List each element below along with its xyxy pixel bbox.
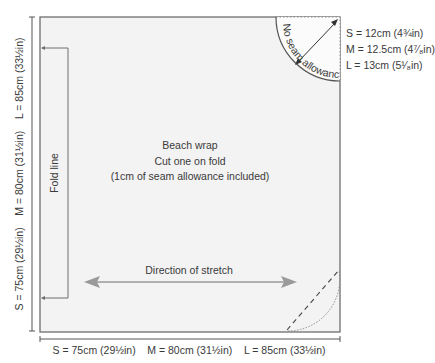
width-dimension-label: S = 75cm (29½in) M = 80cm (31½in) L = 85… xyxy=(52,344,325,356)
piece-instruction: Cut one on fold xyxy=(154,155,225,167)
piece-title: Beach wrap xyxy=(162,139,218,151)
size-s: S = 12cm (4¾in) xyxy=(346,25,435,41)
height-dimension-label: S = 75cm (29½in) M = 80cm (31½in) L = 85… xyxy=(13,37,25,310)
width-dimension-line xyxy=(40,336,340,342)
corner-radius-sizes: S = 12cm (4¾in) M = 12.5cm (4⁷⁄₈in) L = … xyxy=(346,25,435,73)
size-m: M = 12.5cm (4⁷⁄₈in) xyxy=(346,41,435,57)
stretch-label: Direction of stretch xyxy=(145,264,233,276)
fold-line-label: Fold line xyxy=(48,153,60,193)
size-l: L = 13cm (5¹⁄₈in) xyxy=(346,57,435,73)
piece-note: (1cm of seam allowance included) xyxy=(111,170,270,182)
height-dimension-line xyxy=(29,17,35,331)
